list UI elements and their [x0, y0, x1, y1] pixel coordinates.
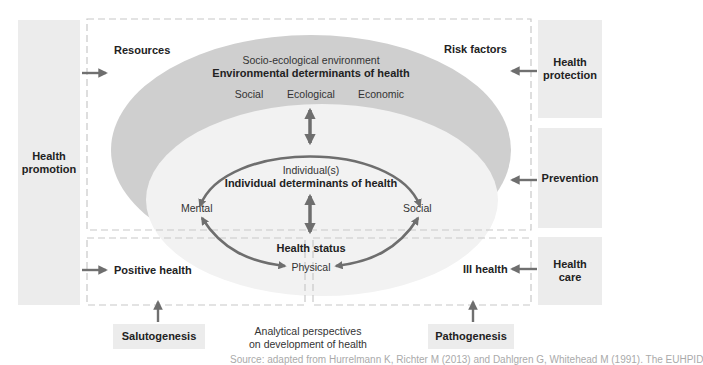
positive-health-label: Positive health [114, 264, 192, 276]
risk-factors-label: Risk factors [444, 43, 507, 55]
individual-subtitle: Individual(s) [283, 164, 340, 176]
mental-label: Mental [181, 202, 213, 214]
pathogenesis-box: Pathogenesis [428, 324, 514, 349]
salutogenesis-box: Salutogenesis [113, 324, 205, 349]
environment-economic: Economic [358, 88, 404, 100]
environment-ecological: Ecological [287, 88, 335, 100]
individual-title: Individual determinants of health [225, 177, 397, 189]
source-caption-cutoff: Source: adapted from Hurrelmann K, Richt… [230, 354, 703, 365]
environment-social: Social [235, 88, 264, 100]
caption-line-1: Analytical perspectives [228, 325, 388, 338]
environment-subtitle: Socio-ecological environment [242, 54, 379, 66]
resources-label: Resources [114, 44, 170, 56]
pathogenesis-label: Pathogenesis [435, 330, 507, 343]
salutogenesis-label: Salutogenesis [122, 330, 197, 343]
social-label: Social [403, 202, 432, 214]
caption-line-2: on development of health [228, 338, 388, 351]
physical-label: Physical [291, 261, 330, 273]
health-status-label: Health status [276, 242, 345, 254]
ill-health-label: Ill health [463, 263, 508, 275]
environment-title: Environmental determinants of health [212, 67, 409, 79]
analytical-perspectives-caption: Analytical perspectives on development o… [228, 325, 388, 351]
